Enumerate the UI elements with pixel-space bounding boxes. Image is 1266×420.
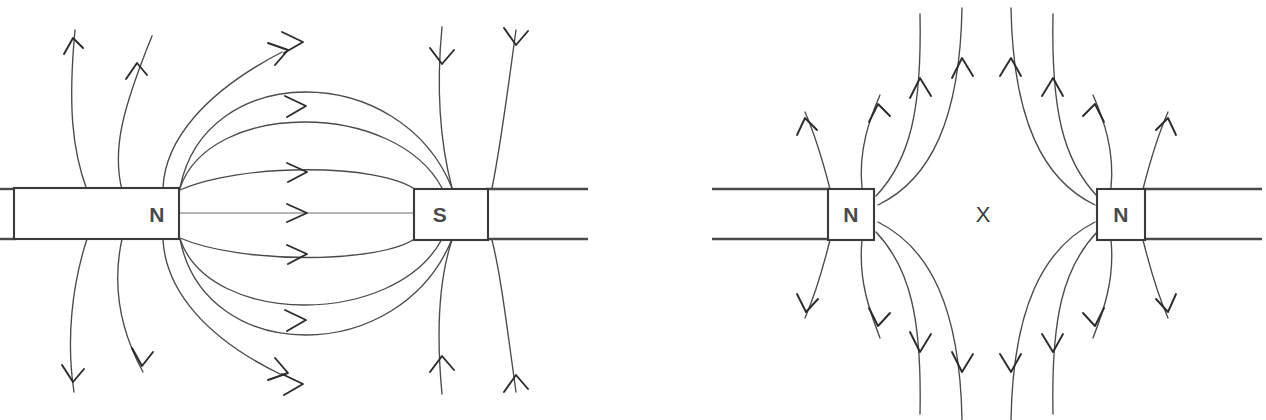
field-lines-left-upper [64,30,288,190]
field-lines-left-n-upper [797,8,973,205]
pole-label-s-right: S [433,203,448,226]
field-lines-left-n-lower [797,222,973,420]
field-lines-right-upper [430,27,528,188]
magnet-n-left: N [0,188,179,239]
magnet-n-left-repulsion: N [712,189,874,240]
magnet-s-right: S [414,189,588,240]
field-line-axis [180,204,414,222]
field-lines-right-n-lower [1000,222,1176,420]
diagram-canvas: N S [0,0,1266,420]
field-lines-arc-lower [180,238,452,395]
pole-label-n-left: N [149,203,165,226]
field-lines-right-lower [430,240,528,394]
neutral-point-label: X [976,202,991,227]
magnet-n-right-repulsion: N [1097,189,1262,240]
field-lines-right-n-upper [1000,8,1176,205]
field-lines-arc-upper [180,32,452,190]
field-lines-left-lower [62,239,288,392]
panel-attraction: N S [0,27,588,395]
magnetic-field-figure: N S [0,0,1266,420]
pole-label-n-left-repulsion: N [843,203,859,226]
magnet-body-s [414,189,488,240]
panel-repulsion: X N N [712,8,1262,420]
pole-label-n-right-repulsion: N [1113,203,1129,226]
